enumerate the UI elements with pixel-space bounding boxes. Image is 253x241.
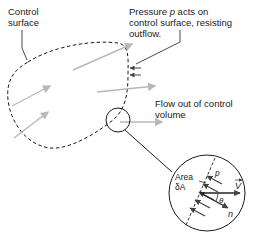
flow-out-label: Flow out of control volume xyxy=(155,98,233,120)
detail-n-label: n xyxy=(228,209,233,220)
detail-v-label: V xyxy=(235,181,241,192)
control-surface-leader xyxy=(22,30,27,60)
pressure-arrows xyxy=(130,68,141,75)
area-label: Area δA xyxy=(175,172,193,192)
control-surface-outline xyxy=(8,42,128,148)
normal-vector xyxy=(200,193,228,208)
detail-p-label: p xyxy=(215,168,220,179)
small-detail-circle xyxy=(106,108,130,132)
magnify-leader xyxy=(125,130,172,172)
control-surface-label: Control surface xyxy=(8,6,39,28)
detail-theta-label: θ xyxy=(219,195,223,206)
pressure-label: Pressure p acts on control surface, resi… xyxy=(129,6,232,39)
